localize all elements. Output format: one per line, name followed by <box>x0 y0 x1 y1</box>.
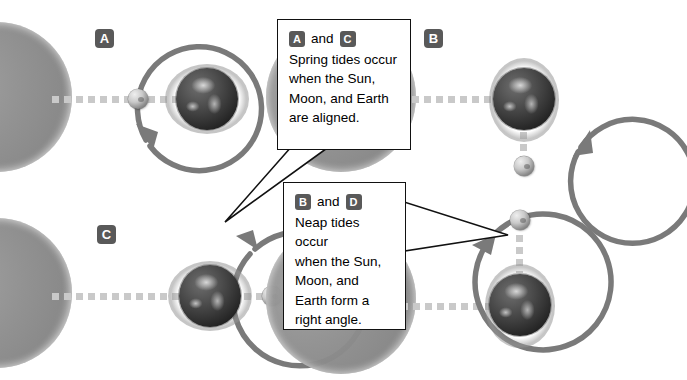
panel-label-a: A <box>95 29 114 48</box>
earth-globe-icon <box>176 68 238 130</box>
conjunction-and: and <box>317 192 340 212</box>
earth-globe-icon <box>179 265 241 327</box>
inline-badge-c: C <box>340 31 356 47</box>
callout-spring-body: A and C Spring tides occur when the Sun,… <box>278 20 410 136</box>
panel-label-b: B <box>424 29 443 48</box>
moon-sphere-icon <box>514 156 534 176</box>
inline-badge-a: A <box>289 31 305 47</box>
inline-badge-b: B <box>295 194 311 210</box>
callout-spring-text: Spring tides occur when the Sun, Moon, a… <box>289 50 400 128</box>
earth-globe-icon <box>489 274 551 336</box>
callout-spring-heading: A and C <box>289 29 400 49</box>
callout-spring-tides: A and C Spring tides occur when the Sun,… <box>277 19 411 150</box>
earth-globe-icon <box>493 68 555 130</box>
callout-pointer-neap <box>390 190 520 260</box>
callout-neap-body: B and D Neap tides occur when the Sun, M… <box>284 183 405 338</box>
callout-neap-text: Neap tides occur when the Sun, Moon, and… <box>295 213 395 330</box>
tides-diagram: A B C <box>0 0 687 380</box>
inline-badge-d: D <box>346 194 362 210</box>
callout-neap-heading: B and D <box>295 192 395 212</box>
conjunction-and: and <box>311 29 334 49</box>
panel-label-c: C <box>97 225 116 244</box>
callout-neap-tides: B and D Neap tides occur when the Sun, M… <box>283 182 406 330</box>
moon-sphere-icon <box>128 89 148 109</box>
